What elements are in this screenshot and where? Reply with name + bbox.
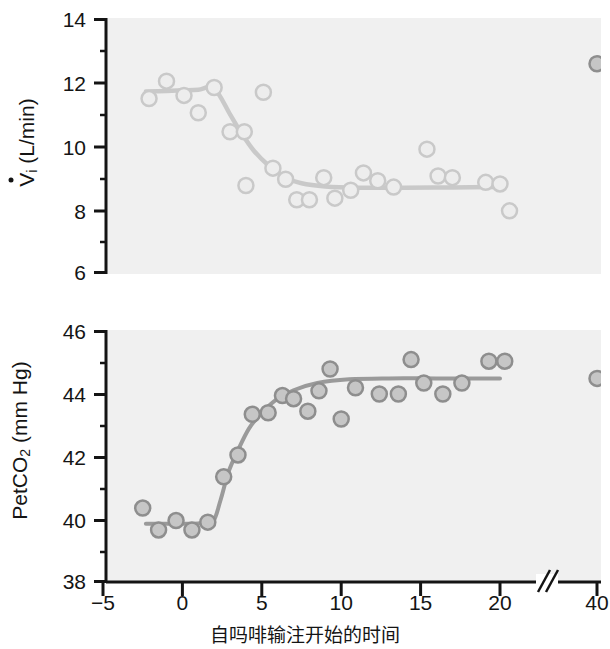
y-axis-vi bbox=[94, 18, 106, 274]
data-point bbox=[590, 56, 605, 71]
data-point bbox=[300, 404, 315, 419]
xtick-label: 5 bbox=[232, 592, 292, 613]
data-point bbox=[502, 203, 517, 218]
panel-petco2: PetCO2 (mm Hg) bbox=[0, 318, 610, 608]
ytick-vi-10: 10 bbox=[28, 137, 86, 158]
plot-svg-petco2 bbox=[0, 318, 610, 608]
data-point bbox=[435, 387, 450, 402]
data-point bbox=[237, 124, 252, 139]
xtick-label: 15 bbox=[391, 592, 451, 613]
data-point bbox=[230, 447, 245, 462]
ytick-petco2-44: 44 bbox=[28, 384, 86, 405]
data-point bbox=[454, 376, 469, 391]
data-point bbox=[497, 354, 512, 369]
ytick-petco2-42: 42 bbox=[28, 447, 86, 468]
data-point bbox=[278, 172, 293, 187]
data-point bbox=[478, 175, 493, 190]
data-point bbox=[416, 376, 431, 391]
xtick-label: 40 bbox=[567, 592, 610, 613]
data-point bbox=[343, 183, 358, 198]
data-point bbox=[207, 80, 222, 95]
data-point bbox=[323, 362, 338, 377]
data-point bbox=[391, 387, 406, 402]
data-point bbox=[316, 170, 331, 185]
data-point bbox=[216, 469, 231, 484]
figure-caption: 自吗啡输注开始的时间 bbox=[0, 620, 610, 647]
data-point bbox=[265, 161, 280, 176]
data-point bbox=[493, 176, 508, 191]
data-point bbox=[256, 85, 271, 100]
data-point bbox=[135, 501, 150, 516]
data-point bbox=[159, 74, 174, 89]
y-axis-petco2 bbox=[94, 330, 106, 583]
ytick-petco2-38: 38 bbox=[28, 571, 86, 592]
data-point bbox=[200, 515, 215, 530]
data-point bbox=[348, 380, 363, 395]
xtick-label: 0 bbox=[152, 592, 212, 613]
ytick-vi-14: 14 bbox=[28, 9, 86, 30]
data-point bbox=[169, 513, 184, 528]
data-point bbox=[261, 405, 276, 420]
data-point bbox=[311, 383, 326, 398]
xtick-label: 20 bbox=[470, 592, 530, 613]
data-point bbox=[431, 169, 446, 184]
data-point bbox=[151, 522, 166, 537]
data-point bbox=[238, 178, 253, 193]
ytick-petco2-46: 46 bbox=[28, 321, 86, 342]
v-dot-symbol: V bbox=[15, 173, 39, 187]
data-point bbox=[386, 180, 401, 195]
data-point bbox=[445, 170, 460, 185]
plot-background-vi bbox=[106, 18, 601, 274]
data-point bbox=[334, 412, 349, 427]
xtick-label: 10 bbox=[311, 592, 371, 613]
figure-container: Vi (L/min) bbox=[0, 0, 610, 649]
data-point bbox=[184, 522, 199, 537]
ytick-vi-12: 12 bbox=[28, 73, 86, 94]
data-point bbox=[419, 142, 434, 157]
data-point bbox=[356, 165, 371, 180]
data-point bbox=[372, 387, 387, 402]
plot-background-petco2 bbox=[106, 330, 601, 583]
data-point bbox=[191, 105, 206, 120]
data-point bbox=[176, 88, 191, 103]
ytick-petco2-40: 40 bbox=[28, 510, 86, 531]
xtick-label: −5 bbox=[73, 592, 133, 613]
data-point bbox=[590, 371, 605, 386]
data-point bbox=[327, 191, 342, 206]
data-point bbox=[245, 407, 260, 422]
data-point bbox=[481, 354, 496, 369]
data-point bbox=[223, 124, 238, 139]
ytick-vi-8: 8 bbox=[28, 201, 86, 222]
data-point bbox=[404, 352, 419, 367]
panel-vi: Vi (L/min) bbox=[0, 0, 610, 300]
data-point bbox=[370, 173, 385, 188]
data-point bbox=[286, 391, 301, 406]
data-point bbox=[302, 192, 317, 207]
data-point bbox=[142, 91, 157, 106]
ytick-vi-6: 6 bbox=[28, 262, 86, 283]
